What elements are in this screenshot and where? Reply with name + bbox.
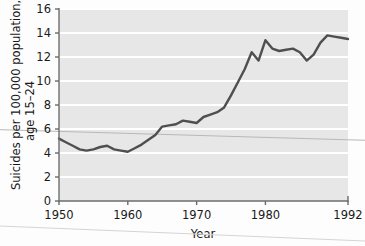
y-tick-label-2: 2 <box>44 170 51 184</box>
y-axis-title-line2: age 15–24 <box>23 81 37 141</box>
y-tick-label-4: 4 <box>44 146 51 160</box>
x-tick-label-1970: 1970 <box>182 208 211 222</box>
x-tick-label-1950: 1950 <box>44 208 73 222</box>
y-tick-label-8: 8 <box>44 98 51 112</box>
line-chart: 0246810121416 19501960197019801992 Suici… <box>0 0 365 246</box>
y-tick-label-14: 14 <box>36 26 51 40</box>
y-tick-label-10: 10 <box>36 74 51 88</box>
y-axis-title-line1: Suicides per 100,000 population, <box>9 0 23 190</box>
y-tick-label-0: 0 <box>44 194 51 208</box>
y-tick-label-6: 6 <box>44 122 51 136</box>
chart-figure: 0246810121416 19501960197019801992 Suici… <box>0 0 365 246</box>
x-tick-label-1980: 1980 <box>251 208 280 222</box>
x-tick-label-1960: 1960 <box>113 208 142 222</box>
y-tick-label-12: 12 <box>36 50 51 64</box>
x-axis-tick-labels-group: 19501960197019801992 <box>44 208 362 222</box>
y-tick-label-16: 16 <box>36 2 51 16</box>
x-tick-label-1992: 1992 <box>333 208 362 222</box>
y-axis-tick-labels-group: 0246810121416 <box>36 2 51 208</box>
scan-artifact-line-lower <box>0 226 365 241</box>
